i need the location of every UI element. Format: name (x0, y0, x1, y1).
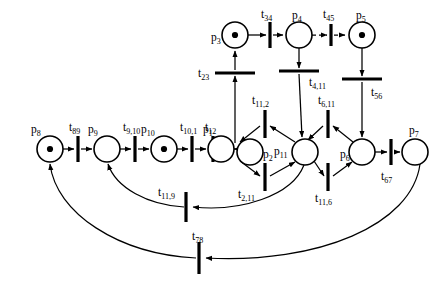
arc-t411-p11 (299, 74, 302, 137)
petri-net-diagram: p8 p9 p10 p1 p2 p11 p6 p7 p3 p4 p5 t89 t… (0, 0, 434, 281)
place-p9[interactable] (94, 136, 120, 162)
label-transition-t34: t34 (261, 8, 272, 23)
token-p8 (47, 146, 53, 152)
arc-t78-p8 (50, 164, 196, 258)
label-transition-t11-9: t11,9 (158, 186, 175, 201)
label-place-p8: p8 (31, 123, 41, 138)
token-p3 (232, 32, 238, 38)
label-transition-t11-6: t11,6 (315, 192, 332, 207)
token-p5 (359, 32, 365, 38)
arc-p11-t112 (270, 126, 295, 142)
label-place-p7: p7 (409, 124, 419, 139)
label-transition-t10-1: t10,1 (180, 121, 197, 136)
token-p10 (161, 146, 167, 152)
label-transition-t45: t45 (323, 8, 334, 23)
place-p6[interactable] (349, 139, 375, 165)
label-place-p6: p6 (340, 148, 350, 163)
label-transition-t9-10: t9,10 (123, 121, 140, 136)
arc-t119-p9 (108, 164, 184, 207)
label-transition-t11-2: t11,2 (252, 94, 269, 109)
place-p4[interactable] (286, 22, 312, 48)
place-p2[interactable] (237, 139, 263, 165)
label-transition-t78: t78 (192, 230, 203, 245)
label-place-p11: p11 (274, 145, 287, 160)
arc-t211-p11 (270, 162, 295, 176)
arc-t116-p6 (333, 162, 352, 176)
label-place-p10: p10 (141, 123, 155, 138)
place-p7[interactable] (402, 139, 428, 165)
petri-net-canvas: p8 p9 p10 p1 p2 p11 p6 p7 p3 p4 p5 t89 t… (0, 0, 434, 281)
arc-p11-t116 (314, 161, 324, 176)
place-layer (37, 22, 428, 165)
label-transition-t6-11: t6,11 (318, 94, 335, 109)
label-transition-t67: t67 (381, 170, 392, 185)
place-p11[interactable] (292, 139, 318, 165)
arc-t611-p11 (308, 126, 323, 140)
label-place-p9: p9 (88, 123, 98, 138)
label-place-p4: p4 (292, 9, 302, 24)
label-transition-t2-11: t2,11 (238, 188, 255, 203)
label-place-p5: p5 (356, 9, 366, 24)
label-transition-t56: t56 (371, 86, 382, 101)
label-place-p2: p2 (263, 148, 273, 163)
place-p1[interactable] (208, 136, 234, 162)
label-transition-t89: t89 (69, 121, 80, 136)
label-transition-t4-11: t4,11 (309, 76, 326, 91)
label-transition-t23: t23 (198, 67, 209, 82)
arc-p6-t611 (333, 126, 353, 142)
label-place-p3: p3 (211, 31, 221, 46)
